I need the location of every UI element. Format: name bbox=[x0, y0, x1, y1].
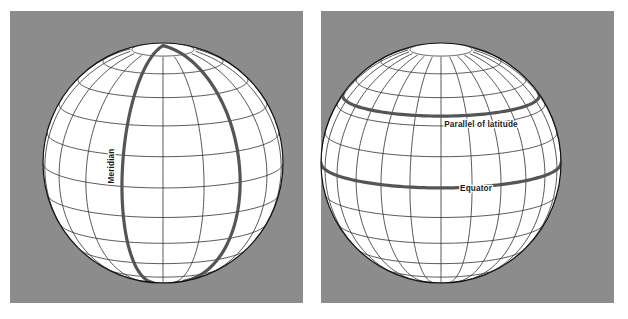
parallels-panel bbox=[321, 11, 614, 303]
meridian-label-text: Meridian bbox=[107, 149, 116, 184]
meridian-label: MeridianMeridian bbox=[107, 149, 116, 184]
parallel-of-latitude-label-text: Parallel of latitude bbox=[444, 120, 518, 129]
meridian-panel bbox=[10, 11, 303, 303]
globe-diagram-figure: MeridianMeridianParallel of latitudePara… bbox=[0, 0, 628, 319]
equator-label: EquatorEquator bbox=[460, 184, 493, 193]
equator-label-text: Equator bbox=[460, 184, 493, 193]
parallel-of-latitude-label: Parallel of latitudeParallel of latitude bbox=[444, 120, 518, 129]
diagram-canvas: MeridianMeridianParallel of latitudePara… bbox=[0, 0, 628, 319]
